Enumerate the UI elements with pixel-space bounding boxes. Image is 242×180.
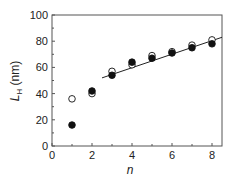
y-tick-label: 0 [42,140,48,152]
open-circle-point [69,96,76,103]
scatter-chart: 02468020406080100 n LH (nm) [0,0,242,180]
x-tick-label: 0 [49,149,55,161]
ticks: 02468020406080100 [30,9,215,161]
filled-circle-point [209,41,216,48]
filled-circle-point [109,72,116,79]
y-axis-label: LH (nm) [8,61,24,101]
x-tick-label: 4 [129,149,135,161]
axes [52,15,222,146]
y-tick-label: 40 [36,88,48,100]
y-tick-label: 100 [30,9,48,21]
filled-circle-point [149,55,156,62]
filled-circle-point [129,59,136,66]
x-axis-label: n [127,163,134,177]
data-points [69,37,216,129]
filled-circle-point [69,122,76,129]
filled-circle-point [89,88,96,95]
y-axis-label-unit: (nm) [8,61,22,89]
y-tick-label: 60 [36,61,48,73]
filled-circle-point [169,50,176,57]
y-axis-label-main: L [8,95,22,102]
fit-line [102,37,222,78]
x-tick-label: 6 [169,149,175,161]
plot-frame [52,15,222,146]
x-tick-label: 8 [209,149,215,161]
filled-circle-point [189,44,196,51]
y-tick-label: 20 [36,114,48,126]
x-tick-label: 2 [89,149,95,161]
y-tick-label: 80 [36,35,48,47]
